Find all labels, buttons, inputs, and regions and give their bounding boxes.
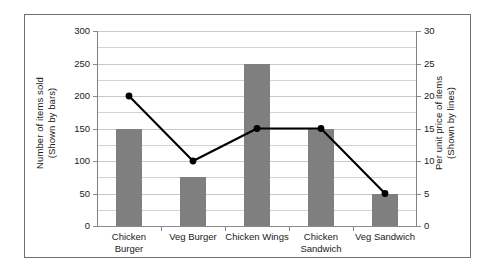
y-axis-left-tick-label: 150: [74, 124, 90, 134]
plot-area: 050100150200250300 051015202530: [97, 31, 417, 227]
y-axis-right-tick: [417, 64, 421, 65]
y-axis-right-tick-label: 10: [424, 156, 435, 166]
y-axis-right-tick-label: 25: [424, 59, 435, 69]
y-axis-left-tick-label: 50: [79, 189, 90, 199]
x-axis-label-chicken-burger: Chicken Burger: [97, 231, 161, 254]
y-axis-left-tick-label: 250: [74, 59, 90, 69]
x-axis-line: [97, 226, 417, 227]
y-axis-left-tick: [93, 129, 97, 130]
y-axis-left-tick: [93, 96, 97, 97]
y-axis-left-tick-label: 100: [74, 156, 90, 166]
x-axis-label-veg-burger: Veg Burger: [161, 231, 225, 243]
y-axis-right-tick: [417, 194, 421, 195]
y-axis-left-line: [97, 31, 98, 227]
x-axis-label-line2: Sandwich: [289, 243, 353, 255]
x-axis-label-line1: Chicken: [289, 231, 353, 243]
y-axis-right-tick: [417, 96, 421, 97]
y-axis-right-tick: [417, 161, 421, 162]
y-axis-right-tick-label: 0: [424, 221, 429, 231]
chart-figure: Number of items sold (Shown by bars) Per…: [0, 0, 495, 274]
line-path: [129, 96, 385, 194]
y-axis-left-tick: [93, 31, 97, 32]
y-axis-left-tick: [93, 226, 97, 227]
x-axis-label-line1: Chicken Burger: [97, 231, 161, 254]
line-marker-veg-burger: [190, 158, 197, 165]
line-marker-chicken-sandwich: [318, 125, 325, 132]
y-axis-left-title-line1: Number of items sold: [34, 48, 46, 198]
line-markers: [126, 93, 389, 197]
y-axis-right-title: Per unit price of items (Shown by lines): [433, 48, 457, 198]
y-axis-right-tick-label: 20: [424, 91, 435, 101]
y-axis-left-tick-label: 300: [74, 26, 90, 36]
y-axis-left-title: Number of items sold (Shown by bars): [34, 48, 58, 198]
y-axis-right-tick-label: 15: [424, 124, 435, 134]
chart-frame-border: Number of items sold (Shown by bars) Per…: [24, 14, 471, 258]
line-series: [97, 31, 417, 227]
y-axis-left-tick: [93, 64, 97, 65]
y-axis-left-tick: [93, 194, 97, 195]
y-axis-right-tick: [417, 226, 421, 227]
y-axis-right-tick-label: 30: [424, 26, 435, 36]
x-axis-label-line1: Veg Burger: [161, 231, 225, 243]
line-marker-chicken-wings: [254, 125, 261, 132]
y-axis-right-title-line1: Per unit price of items: [433, 48, 445, 198]
line-marker-veg-sandwich: [382, 190, 389, 197]
x-axis-label-chicken-wings: Chicken Wings: [225, 231, 289, 243]
y-axis-left-tick: [93, 161, 97, 162]
x-axis-label-line1: Chicken Wings: [225, 231, 289, 243]
y-axis-left-title-line2: (Shown by bars): [46, 48, 58, 198]
x-axis-label-line1: Veg Sandwich: [353, 231, 417, 243]
x-axis-label-chicken: ChickenSandwich: [289, 231, 353, 254]
y-axis-left-tick-label: 200: [74, 91, 90, 101]
y-axis-right-tick: [417, 129, 421, 130]
line-marker-chicken-burger: [126, 93, 133, 100]
x-axis-label-veg-sandwich: Veg Sandwich: [353, 231, 417, 243]
y-axis-left-tick-label: 0: [85, 221, 90, 231]
y-axis-right-tick: [417, 31, 421, 32]
x-axis-category-labels: Chicken BurgerVeg BurgerChicken WingsChi…: [97, 231, 417, 265]
y-axis-right-tick-label: 5: [424, 189, 429, 199]
y-axis-right-title-line2: (Shown by lines): [445, 48, 457, 198]
